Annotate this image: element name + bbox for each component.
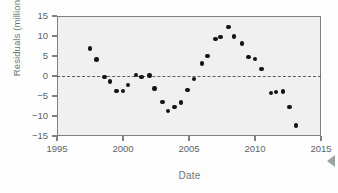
data-point bbox=[152, 86, 156, 90]
data-point bbox=[205, 54, 209, 58]
data-point bbox=[102, 75, 106, 79]
data-point bbox=[114, 89, 118, 93]
x-tick-mark bbox=[320, 136, 321, 141]
data-point bbox=[287, 105, 291, 109]
data-point bbox=[160, 100, 164, 104]
x-tick-label: 2000 bbox=[103, 143, 143, 154]
y-tick-label: −15 bbox=[22, 131, 48, 141]
data-point bbox=[172, 105, 176, 109]
scatter-plot-figure: Residuals (millions) 151050−5−10−15 1995… bbox=[0, 0, 338, 193]
x-tick-mark bbox=[56, 136, 57, 141]
data-point bbox=[179, 100, 183, 104]
data-point bbox=[281, 89, 285, 93]
x-tick-label: 2005 bbox=[169, 143, 209, 154]
data-point bbox=[240, 41, 244, 45]
data-point bbox=[218, 35, 222, 39]
x-tick-mark bbox=[122, 136, 123, 141]
data-point bbox=[185, 88, 189, 92]
x-tick-mark bbox=[188, 136, 189, 141]
y-tick-label: 10 bbox=[22, 31, 48, 41]
y-tick-label: −10 bbox=[22, 111, 48, 121]
data-point bbox=[246, 55, 250, 59]
data-point bbox=[232, 34, 236, 38]
data-point bbox=[108, 79, 112, 83]
data-point bbox=[213, 37, 217, 41]
data-point bbox=[294, 123, 298, 127]
y-tick-label: 15 bbox=[22, 11, 48, 21]
y-tick-label: −5 bbox=[22, 91, 48, 101]
x-axis-label: Date bbox=[57, 170, 322, 181]
y-tick-label: 0 bbox=[22, 71, 48, 81]
x-tick-label: 2015 bbox=[301, 143, 338, 154]
page-edge-arrow-icon bbox=[327, 155, 335, 167]
data-point bbox=[139, 75, 143, 79]
data-point bbox=[88, 46, 92, 50]
x-tick-mark bbox=[254, 136, 255, 141]
x-tick-label: 2010 bbox=[235, 143, 275, 154]
y-tick-label: 5 bbox=[22, 51, 48, 61]
data-point bbox=[94, 57, 98, 61]
x-tick-label: 1995 bbox=[37, 143, 77, 154]
data-point bbox=[147, 73, 151, 77]
zero-line bbox=[57, 76, 321, 77]
